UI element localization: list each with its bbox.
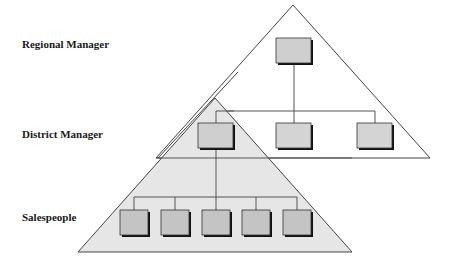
salesperson-box-4: [242, 210, 272, 237]
salesperson-box-2: [161, 210, 191, 237]
district-peer-box-2: [357, 123, 394, 150]
org-pyramid-diagram: [0, 0, 451, 270]
district-peer-box-1: [276, 123, 313, 150]
regional-manager-box: [276, 38, 313, 65]
salesperson-box-3: [202, 210, 232, 237]
district-manager-box: [198, 123, 235, 150]
salesperson-box-5: [283, 210, 313, 237]
salesperson-box-1: [120, 210, 150, 237]
